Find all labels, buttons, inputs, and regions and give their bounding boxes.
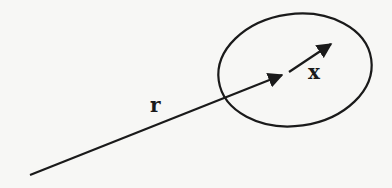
label-x: x <box>308 60 321 84</box>
label-r: r <box>150 93 161 117</box>
region-ellipse <box>211 4 379 136</box>
vector-r-arrow <box>30 75 282 175</box>
position-vector-diagram: r x <box>0 0 392 188</box>
